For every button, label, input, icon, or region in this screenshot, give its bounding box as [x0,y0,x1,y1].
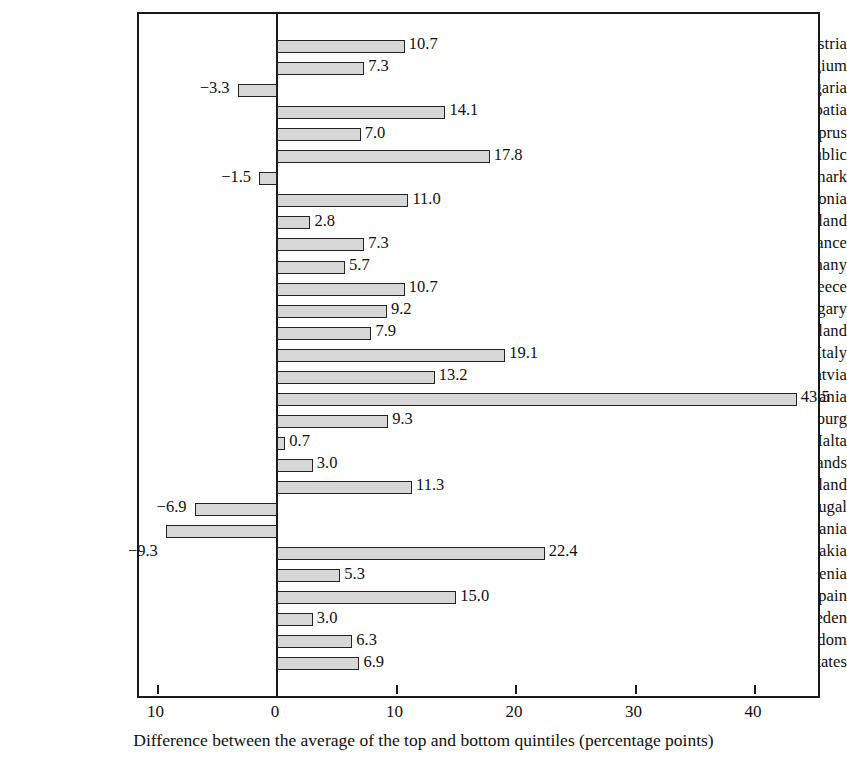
bar [277,62,364,75]
bar-value-label: 9.2 [391,301,412,318]
bar [277,327,371,340]
bar [166,525,277,538]
bar [277,657,359,670]
bar-value-label: 22.4 [549,543,578,560]
x-tick-label: 10 [386,703,403,720]
bar-value-label: 6.3 [356,632,377,649]
x-tick-label: 20 [506,703,523,720]
bar-value-label: 7.0 [365,125,386,142]
bar [277,283,405,296]
x-tick-mark [157,685,159,694]
bar-value-label: 0.7 [289,433,310,450]
bar-value-label: −6.9 [157,499,187,516]
bar-value-label: 7.3 [368,58,389,75]
bar-value-label: 15.0 [460,588,489,605]
bar [277,261,345,274]
bar [277,591,456,604]
x-tick-label: 10 [147,703,164,720]
bar-value-label: 7.9 [375,323,396,340]
bar [277,305,387,318]
bar [277,371,435,384]
bar-value-label: 10.7 [409,279,438,296]
bar [277,569,340,582]
bar [238,84,277,97]
bar-value-label: 43.5 [801,389,830,406]
bar [277,393,797,406]
bar-value-label: 5.3 [344,566,365,583]
bar [277,128,361,141]
bar [277,194,408,207]
bar-value-label: 11.0 [412,191,440,208]
bar-value-label: 11.3 [416,477,444,494]
bar [277,40,405,53]
bar-value-label: −9.3 [128,543,158,560]
bar-value-label: 6.9 [363,654,384,671]
x-tick-mark [515,685,517,694]
bar-value-label: 19.1 [509,345,538,362]
bar-value-label: 3.0 [317,455,338,472]
bar [277,106,445,119]
bar [277,459,313,472]
bar-value-label: 3.0 [317,610,338,627]
x-axis-title: Difference between the average of the to… [0,731,847,750]
bar [277,613,313,626]
x-tick-label: 0 [271,703,280,720]
bar [277,216,310,229]
bar [277,547,545,560]
bar-value-label: 17.8 [494,147,523,164]
bar [277,481,412,494]
bar [277,635,352,648]
bar [277,150,490,163]
bar [277,415,388,428]
x-tick-mark [754,685,756,694]
bar [277,437,285,450]
bar-value-label: 9.3 [392,411,413,428]
x-tick-mark [276,685,278,694]
bar-chart-figure: AustriaBelgiumBulgariaCroatiaCyprusCzech… [0,0,847,759]
bar-value-label: −1.5 [221,169,251,186]
bar-value-label: 2.8 [314,213,335,230]
bar [277,349,505,362]
x-tick-label: 40 [745,703,762,720]
x-tick-mark [396,685,398,694]
x-tick-mark [635,685,637,694]
bar [195,503,277,516]
bar [277,238,364,251]
bar-value-label: 10.7 [409,36,438,53]
bar [259,172,277,185]
bar-value-label: 14.1 [449,102,478,119]
x-tick-label: 30 [625,703,642,720]
bar-value-label: 7.3 [368,235,389,252]
bar-value-label: 5.7 [349,257,370,274]
bar-value-label: −3.3 [200,80,230,97]
bar-value-label: 13.2 [439,367,468,384]
